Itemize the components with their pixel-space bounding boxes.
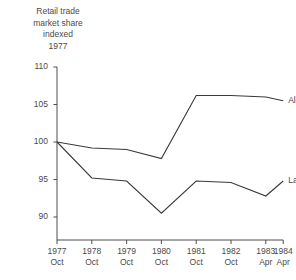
x-tick-label-year: 1984 xyxy=(266,246,296,257)
x-tick-label-month: Oct xyxy=(110,257,144,268)
y-tick-label: 95 xyxy=(22,174,48,184)
x-tick-label-month: Oct xyxy=(144,257,178,268)
series-line-lagers xyxy=(57,142,283,213)
x-tick-label-month: Apr xyxy=(266,257,296,268)
x-tick-label: 1984Apr xyxy=(266,246,296,268)
x-tick-label: 1978Oct xyxy=(75,246,109,268)
series-line-ales xyxy=(57,96,283,159)
line-chart: Retail trade market share indexed 1977 1… xyxy=(0,0,296,280)
x-tick-label-year: 1981 xyxy=(179,246,213,257)
x-tick-label-year: 1979 xyxy=(110,246,144,257)
x-tick-label: 1980Oct xyxy=(144,246,178,268)
x-tick-label-month: Oct xyxy=(214,257,248,268)
chart-axes xyxy=(54,67,284,244)
x-tick-label-year: 1977 xyxy=(40,246,74,257)
series-label-lagers: Lagers xyxy=(288,175,296,185)
x-tick-label-year: 1978 xyxy=(75,246,109,257)
y-tick-label: 110 xyxy=(22,61,48,71)
x-tick-label-year: 1982 xyxy=(214,246,248,257)
x-tick-label-year: 1980 xyxy=(144,246,178,257)
x-tick-label: 1977Oct xyxy=(40,246,74,268)
x-tick-label: 1979Oct xyxy=(110,246,144,268)
y-tick-label: 90 xyxy=(22,211,48,221)
x-tick-label: 1981Oct xyxy=(179,246,213,268)
x-tick-label-month: Oct xyxy=(179,257,213,268)
x-tick-label: 1982Oct xyxy=(214,246,248,268)
y-tick-label: 100 xyxy=(22,136,48,146)
y-tick-label: 105 xyxy=(22,99,48,109)
series-label-ales: Ales xyxy=(288,95,296,105)
x-tick-label-month: Oct xyxy=(75,257,109,268)
chart-series-group xyxy=(57,96,283,214)
x-tick-label-month: Oct xyxy=(40,257,74,268)
